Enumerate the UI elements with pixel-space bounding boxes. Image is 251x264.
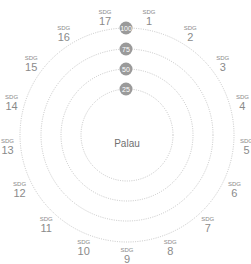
svg-text:12: 12 [13, 187, 25, 199]
ring-25 [81, 89, 173, 181]
sdg-label-17: SDG17 [98, 9, 111, 27]
sdg-label-9: SDG9 [120, 247, 133, 264]
ring-badge-50: 50 [120, 63, 133, 76]
sdg-label-11: SDG11 [40, 216, 53, 234]
svg-text:6: 6 [231, 187, 237, 199]
sdg-label-4: SDG4 [236, 94, 249, 112]
svg-text:7: 7 [205, 222, 211, 234]
sdg-label-8: SDG8 [164, 239, 177, 257]
sdg-label-16: SDG16 [57, 25, 70, 43]
sdg-radial-chart: 255075100 SDG1SDG2SDG3SDG4SDG5SDG6SDG7SD… [0, 0, 251, 264]
ring-badge-100: 100 [120, 22, 133, 35]
sdg-label-7: SDG7 [201, 216, 214, 234]
svg-text:75: 75 [122, 46, 130, 53]
svg-text:5: 5 [243, 144, 249, 156]
sdg-label-10: SDG10 [77, 239, 90, 257]
svg-text:4: 4 [239, 100, 245, 112]
svg-text:14: 14 [5, 100, 17, 112]
svg-text:2: 2 [187, 31, 193, 43]
svg-text:3: 3 [220, 61, 226, 73]
ring-badge-75: 75 [120, 43, 133, 56]
svg-text:16: 16 [58, 31, 70, 43]
sdg-label-6: SDG6 [228, 181, 241, 199]
ring-value-badges: 255075100 [120, 22, 133, 96]
svg-text:11: 11 [40, 222, 51, 234]
svg-text:15: 15 [25, 61, 37, 73]
sdg-label-14: SDG14 [5, 94, 18, 112]
sdg-label-2: SDG2 [184, 25, 197, 43]
svg-text:50: 50 [122, 66, 130, 73]
svg-text:8: 8 [167, 245, 173, 257]
svg-text:25: 25 [122, 86, 130, 93]
sdg-label-1: SDG1 [142, 9, 155, 27]
country-label: Palau [114, 138, 140, 149]
ring-badge-25: 25 [120, 83, 133, 96]
svg-text:17: 17 [99, 15, 111, 27]
ring-100 [20, 28, 234, 242]
svg-text:100: 100 [120, 25, 132, 32]
ring-grid [20, 28, 234, 242]
svg-text:1: 1 [146, 15, 152, 27]
svg-text:9: 9 [124, 253, 130, 264]
sdg-label-12: SDG12 [13, 181, 26, 199]
svg-text:10: 10 [78, 245, 90, 257]
sdg-label-3: SDG3 [216, 55, 229, 73]
sdg-label-5: SDG5 [240, 138, 251, 156]
sdg-label-13: SDG13 [1, 138, 14, 156]
sdg-label-15: SDG15 [25, 55, 38, 73]
svg-text:13: 13 [1, 144, 13, 156]
